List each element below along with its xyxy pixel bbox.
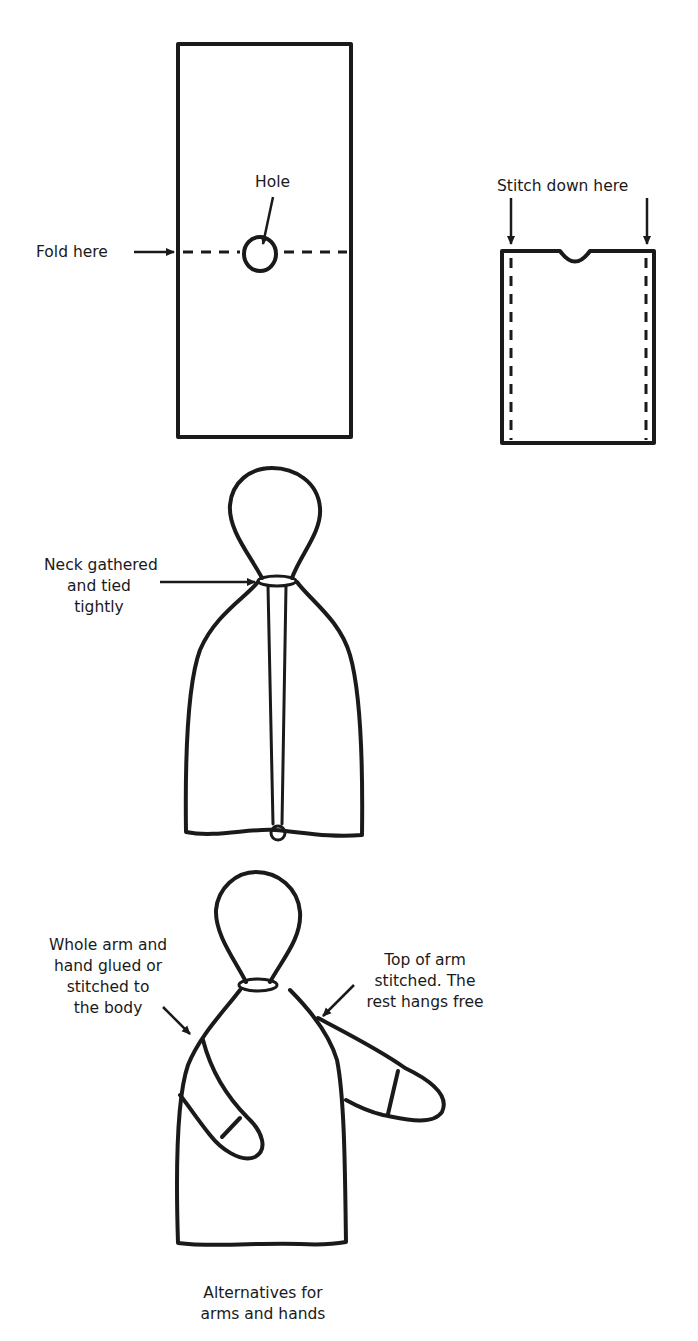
puppet-diagram [0, 0, 698, 1341]
hole-circle [244, 237, 276, 271]
caption-line-2: arms and hands [188, 1304, 338, 1325]
glued-label-line-2: hand glued or [38, 956, 178, 977]
glued-label-line-1: Whole arm and [38, 935, 178, 956]
neck-ring-2 [239, 979, 277, 991]
hole-label: Hole [255, 172, 290, 193]
puppet-head [230, 468, 320, 578]
neck-label-line-3: tightly [44, 597, 154, 618]
fold-here-label: Fold here [36, 242, 108, 263]
free-label-line-2: stitched. The [350, 971, 500, 992]
right-wrist-line [388, 1071, 398, 1114]
free-label-line-1: Top of arm [350, 950, 500, 971]
puppet-body-2 [177, 990, 346, 1245]
stitched-pocket-figure [502, 198, 654, 443]
neck-slit [268, 586, 286, 824]
neck-gathered-label: Neck gathered and tied tightly [44, 555, 154, 618]
arms-puppet-figure [163, 872, 444, 1245]
puppet-head-2 [216, 872, 300, 982]
glued-label-line-3: stitched to [38, 977, 178, 998]
neck-label-line-1: Neck gathered [44, 555, 154, 576]
fabric-rectangle-figure [134, 44, 351, 437]
alternatives-caption: Alternatives for arms and hands [188, 1283, 338, 1325]
puppet-body [186, 582, 362, 836]
pocket-outline [502, 251, 654, 443]
left-wrist-line [222, 1118, 240, 1137]
free-arm-label: Top of arm stitched. The rest hangs free [350, 950, 500, 1013]
glued-arm-label: Whole arm and hand glued or stitched to … [38, 935, 178, 1019]
stitch-down-label: Stitch down here [497, 176, 628, 197]
neck-ring [258, 576, 296, 586]
free-label-line-3: rest hangs free [350, 992, 500, 1013]
neck-label-line-2: and tied [44, 576, 154, 597]
gathered-neck-puppet-figure [160, 468, 362, 840]
caption-line-1: Alternatives for [188, 1283, 338, 1304]
glued-label-line-4: the body [38, 998, 178, 1019]
slit-end-circle [271, 826, 285, 840]
